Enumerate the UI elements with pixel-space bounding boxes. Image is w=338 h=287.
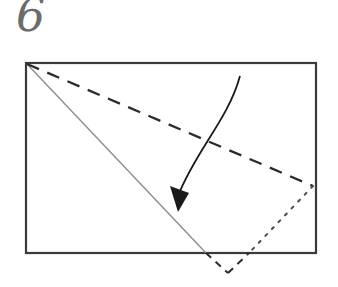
flap-tip-left-line (206, 253, 228, 273)
fold-arrow-head (170, 186, 189, 212)
fold-diagram-svg (0, 0, 338, 287)
origami-step-figure: 6 (0, 0, 338, 287)
hidden-flap-edge-line (249, 186, 313, 253)
flap-tip-right-line (228, 253, 249, 273)
fold-arrow-curve (178, 76, 240, 196)
existing-crease-line (27, 64, 206, 253)
paper-sheet-outline (26, 63, 316, 253)
valley-fold-line (27, 64, 313, 186)
